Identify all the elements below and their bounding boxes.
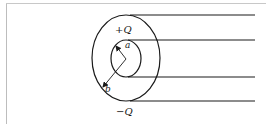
outer-radius-label: b [105,84,111,94]
diagram-canvas: +Q a b −Q [0,0,266,124]
negative-charge-label: −Q [116,106,133,117]
coaxial-capacitor-diagram: +Q a b −Q [0,0,266,124]
radius-b-arrow [103,59,126,87]
positive-charge-label: +Q [115,24,132,35]
inner-radius-label: a [125,40,130,50]
